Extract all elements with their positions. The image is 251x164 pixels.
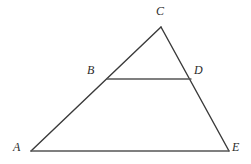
segment-c-e bbox=[161, 27, 229, 151]
segment-a-c bbox=[31, 27, 161, 151]
vertex-label-a: A bbox=[13, 141, 20, 153]
vertex-label-e: E bbox=[232, 141, 239, 153]
geometry-figure: C B D A E bbox=[0, 0, 251, 164]
figure-canvas bbox=[0, 0, 251, 164]
vertex-label-d: D bbox=[194, 64, 203, 76]
vertex-label-c: C bbox=[156, 5, 164, 17]
vertex-label-b: B bbox=[87, 64, 94, 76]
